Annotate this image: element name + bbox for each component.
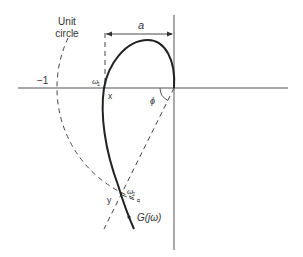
arrowhead-right-icon bbox=[167, 32, 173, 37]
x-point-label: x bbox=[108, 91, 113, 101]
unit-circle-omega2-segment bbox=[122, 195, 140, 202]
unit-circle-label: Unit bbox=[58, 16, 76, 27]
nyquist-curve bbox=[103, 40, 175, 229]
phase-margin-line bbox=[104, 88, 174, 229]
unit-circle-arc bbox=[57, 38, 140, 200]
minus-one-label: −1 bbox=[37, 75, 49, 86]
phi-angle-arc bbox=[160, 88, 168, 101]
nyquist-diagram: Unit circle −1 a ω 1 x ϕ ω 2 y G(jω) bbox=[0, 0, 303, 257]
phi-label: ϕ bbox=[150, 96, 155, 106]
omega2-sub: 2 bbox=[132, 191, 135, 197]
curve-direction-dot bbox=[127, 215, 130, 218]
arrowhead-left-icon bbox=[106, 32, 112, 37]
y-point-label: y bbox=[107, 195, 112, 205]
a-label: a bbox=[138, 19, 144, 31]
unit-circle-label-2: circle bbox=[55, 28, 79, 39]
omega1-sub: 1 bbox=[97, 81, 100, 87]
g-jw-label: G(jω) bbox=[137, 212, 161, 223]
